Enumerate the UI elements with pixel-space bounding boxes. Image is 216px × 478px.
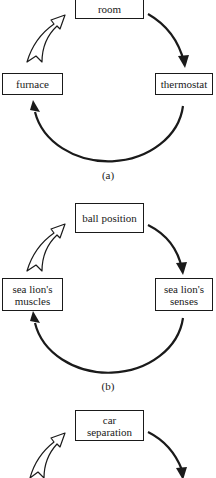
solid-arc-arrow-icon — [30, 311, 183, 373]
node-room: room — [75, 0, 144, 19]
node-sea-lions-senses: sea lion's senses — [155, 278, 213, 311]
panel-c: car separation — [0, 410, 216, 478]
solid-arrow-icon — [148, 225, 187, 275]
hollow-arrow-icon — [27, 15, 65, 62]
hollow-arrow-icon — [30, 433, 65, 478]
solid-arrow-icon — [148, 432, 187, 478]
node-ball-position: ball position — [75, 203, 144, 233]
panel-b: ball position sea lion's muscles sea lio… — [0, 203, 216, 398]
solid-arrow-icon — [148, 14, 189, 68]
solid-arc-arrow-icon — [30, 100, 183, 161]
caption-b: (b) — [0, 380, 216, 392]
node-car-separation: car separation — [75, 410, 144, 441]
node-furnace: furnace — [2, 73, 63, 95]
node-thermostat: thermostat — [155, 73, 213, 95]
panel-a: room furnace thermostat (a) — [0, 0, 216, 185]
caption-a: (a) — [0, 169, 216, 181]
hollow-arrow-icon — [27, 224, 65, 271]
node-sea-lions-muscles: sea lion's muscles — [2, 278, 63, 311]
